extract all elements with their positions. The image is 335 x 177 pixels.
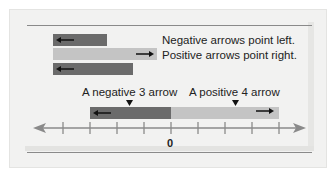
number-line bbox=[0, 0, 335, 177]
zero-label: 0 bbox=[167, 137, 173, 150]
